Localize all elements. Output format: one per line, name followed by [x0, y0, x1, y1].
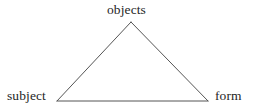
diagram-canvas: objects subject form — [0, 0, 254, 111]
node-label-objects: objects — [107, 3, 146, 17]
node-label-form: form — [215, 89, 242, 103]
edge-subject-to-objects — [57, 22, 131, 101]
edge-objects-to-form — [131, 22, 208, 101]
node-label-subject: subject — [7, 89, 46, 103]
